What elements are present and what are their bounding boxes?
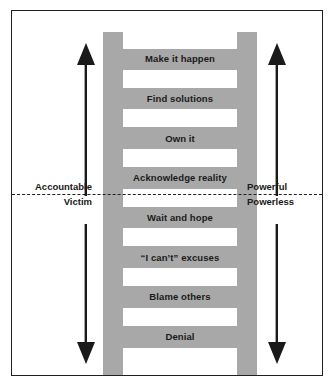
ladder-gap	[123, 70, 237, 88]
ladder-gap	[123, 32, 237, 49]
ladder-step-denial: Denial	[103, 331, 257, 343]
ladder-gap	[123, 308, 237, 326]
arrow-up-right-icon	[265, 41, 289, 197]
diagram-frame: Make it happen Find solutions Own it Ack…	[11, 10, 323, 376]
arrow-down-right-icon	[265, 224, 289, 366]
label-powerful: Powerful	[247, 181, 287, 192]
ladder-gap	[123, 189, 237, 207]
arrow-down-left-icon	[74, 224, 98, 366]
ladder-step-acknowledge-reality: Acknowledge reality	[103, 172, 257, 184]
ladder-gap	[123, 109, 237, 127]
ladder-step-own-it: Own it	[103, 133, 257, 145]
ladder-step-blame-others: Blame others	[103, 291, 257, 303]
ladder-gap	[123, 348, 237, 375]
ladder-gap	[123, 268, 237, 286]
diagram-canvas: Make it happen Find solutions Own it Ack…	[0, 0, 336, 386]
ladder-step-make-it-happen: Make it happen	[103, 53, 257, 65]
ladder-step-i-cant-excuses: “I can’t” excuses	[103, 252, 257, 264]
ladder-graphic: Make it happen Find solutions Own it Ack…	[103, 32, 257, 375]
ladder-gap	[123, 228, 237, 246]
ladder-step-wait-and-hope: Wait and hope	[103, 212, 257, 224]
label-powerless: Powerless	[247, 196, 294, 207]
label-victim: Victim	[18, 196, 92, 207]
ladder-gap	[123, 149, 237, 167]
label-accountable: Accountable	[18, 181, 92, 192]
accountability-divider-line	[12, 194, 322, 195]
arrow-up-left-icon	[74, 41, 98, 197]
ladder-step-find-solutions: Find solutions	[103, 93, 257, 105]
